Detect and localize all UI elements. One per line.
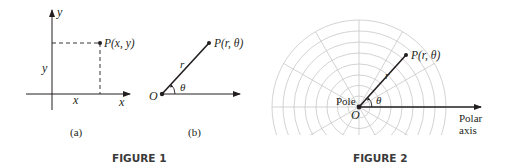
polar-grid — [272, 20, 446, 168]
panel-b-sublabel: (b) — [188, 126, 201, 139]
figure1-panel-b: O P(r, θ) r θ (b) — [149, 37, 243, 139]
radius-segment — [162, 43, 209, 94]
figure1-caption: FIGURE 1 — [112, 152, 166, 164]
radius-label: r — [180, 58, 185, 70]
radius-segment — [359, 55, 406, 107]
x-coord-label: x — [72, 93, 79, 107]
angle-label: θ — [376, 94, 382, 106]
panel-a-sublabel: (a) — [70, 126, 83, 139]
figure2-diagram: Pole O P(r, θ) r θ Polar axis — [336, 49, 483, 136]
y-axis-label: y — [56, 5, 63, 19]
point-p-label: P(x, y) — [103, 37, 135, 50]
point-p-label: P(r, θ) — [213, 37, 243, 50]
x-axis-label: x — [118, 95, 125, 109]
point-p-label: P(r, θ) — [410, 49, 440, 62]
point-p-polar — [404, 53, 408, 57]
figures-canvas: y x P(x, y) y x (a) O P(r, θ) r θ (b) FI… — [0, 0, 505, 168]
polar-axis-label-line1: Polar — [459, 112, 483, 124]
radius-label: r — [385, 69, 390, 81]
figure1-panel-a: y x P(x, y) y x (a) — [26, 5, 135, 139]
origin-point — [160, 92, 164, 96]
point-p-polar — [207, 41, 211, 45]
y-coord-label: y — [41, 61, 48, 75]
origin-label: O — [149, 89, 158, 103]
origin-label: O — [351, 108, 360, 122]
polar-axis-label-line2: axis — [459, 124, 477, 136]
angle-label: θ — [180, 81, 186, 93]
pole-label: Pole — [336, 95, 356, 107]
figure2-caption: FIGURE 2 — [353, 152, 407, 164]
point-p-cartesian — [98, 41, 102, 45]
